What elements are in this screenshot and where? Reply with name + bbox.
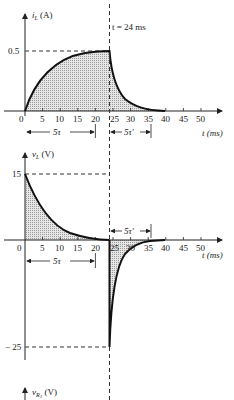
svg-text:20: 20 bbox=[91, 114, 101, 124]
il-shaded-area bbox=[25, 51, 165, 111]
svg-text:15: 15 bbox=[73, 114, 83, 124]
vl-y-tick-m25: − 25 bbox=[5, 342, 22, 352]
svg-text:30: 30 bbox=[126, 114, 136, 124]
svg-text:45: 45 bbox=[179, 114, 189, 124]
vl-axis-label: vL (V) bbox=[32, 149, 54, 160]
transient-response-plots: iL (A) 0.5 t = 24 ms 0 5 10 15 20 25 30 … bbox=[0, 0, 234, 400]
vl-x-tick-labels: 0 5 10 15 20 25 30 35 40 45 50 bbox=[17, 243, 206, 253]
svg-text:35: 35 bbox=[144, 114, 154, 124]
vl-x-axis-label: t (ms) bbox=[202, 250, 223, 260]
svg-text:30: 30 bbox=[126, 243, 136, 253]
vl-five-tau-prime-dimension: 5τ' bbox=[111, 224, 151, 238]
svg-text:5τ': 5τ' bbox=[124, 127, 135, 137]
svg-text:45: 45 bbox=[179, 243, 189, 253]
il-x-tick-labels: 0 5 10 15 20 25 30 35 40 45 50 bbox=[19, 114, 206, 124]
svg-text:10: 10 bbox=[55, 114, 65, 124]
vl-y-tick-15: 15 bbox=[12, 169, 22, 179]
il-x-axis-label: t (ms) bbox=[202, 128, 223, 138]
svg-text:25: 25 bbox=[110, 243, 120, 253]
svg-text:0: 0 bbox=[19, 114, 24, 124]
il-switch-time-label: t = 24 ms bbox=[112, 22, 146, 32]
svg-text:40: 40 bbox=[161, 114, 171, 124]
vl-five-tau-dimension: 5τ bbox=[27, 253, 95, 268]
svg-text:5: 5 bbox=[40, 114, 45, 124]
vl-shaded-negative bbox=[110, 240, 161, 347]
il-axis-label: iL (A) bbox=[32, 10, 53, 21]
svg-text:20: 20 bbox=[91, 243, 101, 253]
vl-chart: vL (V) 15 − 25 0 5 10 15 20 25 30 35 40 … bbox=[4, 149, 223, 360]
svg-text:40: 40 bbox=[161, 243, 171, 253]
vr1-chart: vR1 (V) bbox=[25, 387, 57, 400]
svg-text:35: 35 bbox=[144, 243, 154, 253]
svg-text:5τ: 5τ bbox=[53, 256, 62, 266]
svg-text:10: 10 bbox=[55, 243, 65, 253]
vr1-axis-label: vR1 (V) bbox=[32, 387, 57, 399]
svg-text:0: 0 bbox=[17, 243, 22, 253]
svg-text:15: 15 bbox=[73, 243, 83, 253]
svg-text:5τ: 5τ bbox=[53, 127, 62, 137]
svg-text:50: 50 bbox=[196, 114, 206, 124]
il-y-tick-05: 0.5 bbox=[8, 46, 20, 56]
svg-text:5: 5 bbox=[40, 243, 45, 253]
svg-text:5τ': 5τ' bbox=[124, 226, 135, 236]
svg-text:25: 25 bbox=[110, 114, 120, 124]
il-five-tau-prime-dimension: 5τ' bbox=[111, 124, 151, 138]
il-five-tau-dimension: 5τ bbox=[27, 124, 95, 138]
vl-shaded-positive bbox=[25, 174, 110, 240]
il-chart: iL (A) 0.5 t = 24 ms 0 5 10 15 20 25 30 … bbox=[4, 10, 223, 138]
